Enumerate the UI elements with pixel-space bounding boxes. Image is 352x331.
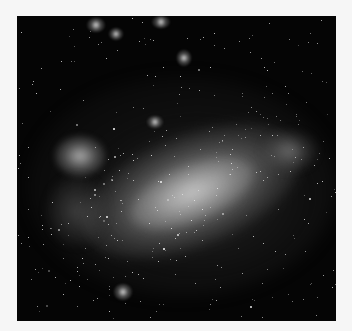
star — [117, 50, 118, 51]
star — [260, 135, 261, 136]
star — [114, 238, 115, 239]
star — [122, 240, 123, 241]
star — [153, 40, 154, 41]
star — [185, 256, 186, 257]
galaxy-photograph — [17, 16, 336, 321]
star — [158, 181, 159, 182]
star — [125, 303, 126, 304]
star — [127, 261, 128, 262]
star — [104, 170, 105, 171]
star — [290, 171, 291, 172]
star — [18, 235, 19, 236]
star — [303, 147, 304, 148]
star — [163, 67, 164, 68]
star — [85, 248, 86, 249]
star — [152, 251, 153, 252]
star — [91, 207, 92, 208]
star — [194, 200, 195, 201]
star — [28, 177, 29, 178]
star — [52, 202, 53, 203]
star — [210, 207, 211, 208]
star — [111, 179, 113, 181]
star — [222, 140, 223, 141]
star — [174, 156, 175, 157]
star — [80, 202, 81, 203]
star — [174, 197, 175, 198]
star — [249, 38, 250, 39]
star — [317, 183, 318, 184]
star — [268, 124, 269, 125]
star — [138, 274, 139, 275]
star — [55, 277, 56, 278]
star — [301, 159, 302, 160]
star — [82, 258, 83, 259]
star — [335, 192, 336, 193]
star — [263, 180, 264, 181]
star — [263, 117, 264, 118]
star — [46, 305, 48, 307]
star — [332, 287, 333, 288]
star — [250, 52, 251, 53]
star — [133, 160, 134, 161]
star — [217, 265, 218, 266]
star — [83, 263, 84, 264]
star — [181, 87, 182, 88]
star — [202, 240, 203, 241]
star — [305, 251, 306, 252]
star — [119, 170, 120, 171]
star — [98, 237, 99, 238]
star — [251, 107, 252, 108]
star — [63, 294, 64, 295]
star — [36, 93, 37, 94]
star — [333, 270, 334, 271]
star-cluster-mid — [147, 116, 163, 128]
star — [310, 284, 311, 285]
star — [272, 93, 273, 94]
star — [143, 108, 144, 109]
star — [58, 229, 60, 231]
star — [262, 283, 263, 284]
star — [288, 294, 289, 295]
star — [114, 156, 116, 158]
star — [296, 116, 297, 117]
star — [217, 219, 218, 220]
star — [176, 138, 177, 139]
star — [63, 258, 64, 259]
star — [50, 228, 51, 229]
star — [275, 251, 276, 252]
star — [70, 280, 71, 281]
star — [200, 149, 201, 150]
star — [150, 39, 151, 40]
star — [196, 230, 197, 231]
star — [288, 93, 289, 94]
star — [179, 211, 180, 212]
star — [323, 275, 324, 276]
star — [74, 61, 75, 62]
star — [132, 272, 133, 273]
star — [180, 248, 181, 249]
star — [283, 268, 284, 269]
star — [245, 137, 246, 138]
galaxy-bar — [65, 97, 319, 285]
star — [256, 172, 257, 173]
star — [37, 306, 38, 307]
star — [222, 213, 224, 215]
star — [219, 142, 220, 143]
star — [209, 309, 210, 310]
star — [216, 157, 217, 158]
star — [294, 238, 295, 239]
star — [125, 276, 126, 277]
star — [280, 120, 281, 121]
star — [214, 95, 215, 96]
star — [87, 216, 88, 217]
star — [113, 318, 114, 319]
star-field — [17, 16, 336, 321]
star — [103, 220, 105, 222]
star — [311, 283, 312, 284]
star — [198, 190, 199, 191]
star — [169, 174, 170, 175]
star — [85, 177, 86, 178]
star — [163, 304, 164, 305]
star — [154, 131, 155, 132]
star — [250, 306, 252, 308]
